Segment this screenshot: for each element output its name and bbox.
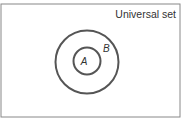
venn-diagram: Universal set B A <box>0 0 182 120</box>
set-a-label: A <box>80 56 88 67</box>
universal-set-frame <box>1 4 180 117</box>
universal-set-label: Universal set <box>115 8 176 20</box>
set-b-label: B <box>103 43 110 54</box>
